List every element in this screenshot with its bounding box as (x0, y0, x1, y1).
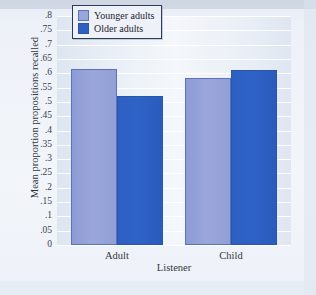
gridline (57, 45, 291, 46)
gridline (57, 59, 291, 60)
x-axis-tick-label: Adult (77, 250, 157, 261)
legend-label-older-adults: Older adults (94, 23, 143, 34)
y-axis-tick-label: .05 (0, 226, 52, 235)
y-axis-tick-label: .55 (0, 83, 52, 92)
y-axis-tick-label: .6 (0, 68, 52, 77)
right-edge-band (304, 0, 316, 295)
x-axis-title: Listener (57, 262, 291, 273)
y-axis-tick-label: .65 (0, 54, 52, 63)
y-axis-tick-label: .8 (0, 11, 52, 20)
bar-child-older (231, 70, 277, 245)
legend-swatch-older-adults (78, 23, 89, 34)
y-axis-tick-label: .15 (0, 197, 52, 206)
gridline (57, 245, 291, 246)
y-axis-tick-label: .4 (0, 126, 52, 135)
bar-adult-younger (71, 69, 117, 245)
chart-figure: Mean proportion propositions recalled 0.… (0, 0, 316, 295)
chart-legend: Younger adults Older adults (72, 5, 162, 39)
y-axis-tick-label: .35 (0, 140, 52, 149)
y-axis-tick-label: 0 (0, 240, 52, 249)
y-axis-tick-label: .2 (0, 183, 52, 192)
y-axis-tick-label: .5 (0, 97, 52, 106)
y-axis-tick-label: .75 (0, 25, 52, 34)
bar-child-younger (185, 78, 231, 245)
y-axis-tick-label: .7 (0, 40, 52, 49)
y-axis-tick-label: .25 (0, 168, 52, 177)
legend-item-younger-adults: Younger adults (78, 9, 154, 22)
legend-item-older-adults: Older adults (78, 22, 154, 35)
plot-area: 0.05.1.15.2.25.3.35.4.45.5.55.6.65.7.75.… (57, 16, 291, 245)
y-axis-tick-label: .1 (0, 211, 52, 220)
bar-adult-older (117, 96, 163, 245)
bottom-edge-band (0, 281, 316, 295)
legend-swatch-younger-adults (78, 10, 89, 21)
legend-label-younger-adults: Younger adults (94, 10, 154, 21)
y-axis-tick-label: .45 (0, 111, 52, 120)
y-axis-tick-label: .3 (0, 154, 52, 163)
x-axis-tick-label: Child (191, 250, 271, 261)
